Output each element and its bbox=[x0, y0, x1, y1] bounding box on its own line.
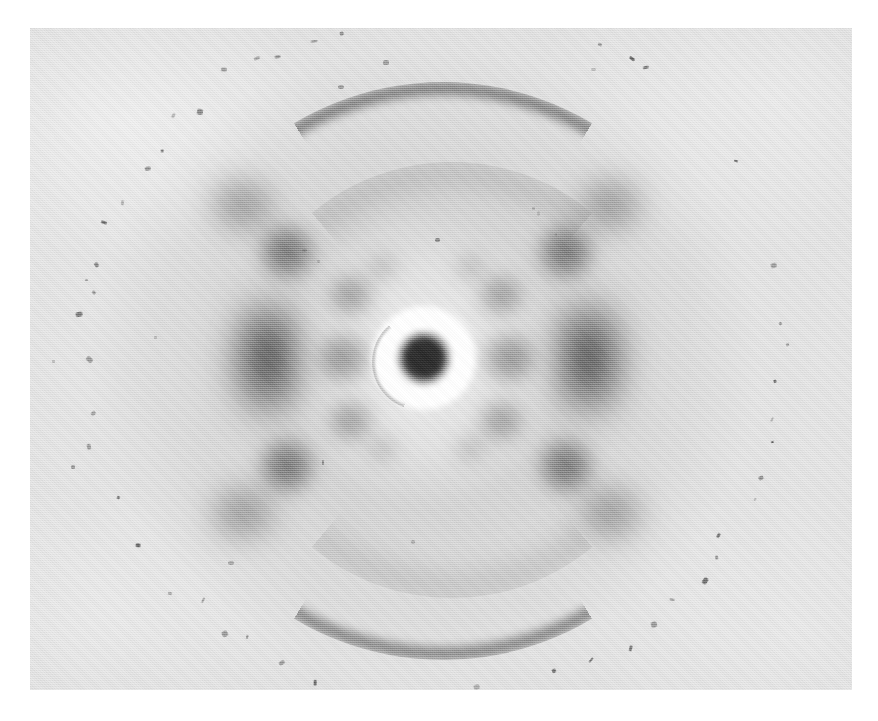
photo51-canvas bbox=[0, 0, 878, 721]
diffraction-photograph bbox=[30, 28, 852, 690]
halftone-screen bbox=[30, 28, 852, 690]
